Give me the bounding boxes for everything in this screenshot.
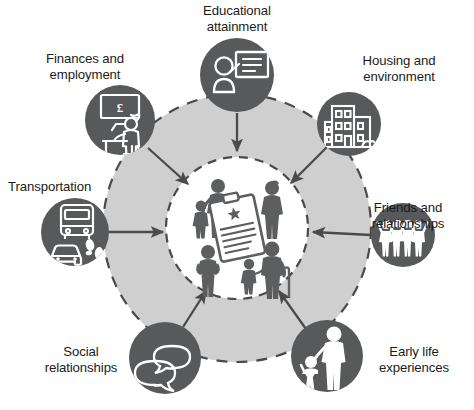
label-friends-and-relationships: Friends and relationships (345, 200, 471, 231)
node-social-relationships[interactable] (129, 322, 201, 394)
label-early-life-experiences: Early life experiences (358, 344, 470, 375)
label-housing-and-environment: Housing and environment (336, 53, 462, 84)
label-transportation: Transportation (8, 179, 134, 195)
label-finances-and-employment: Finances and employment (22, 51, 148, 82)
node-early-life-experiences[interactable] (291, 320, 363, 393)
node-educational-attainment[interactable] (200, 38, 274, 112)
node-housing-and-environment[interactable] (317, 92, 381, 156)
label-social-relationships: Social relationships (25, 344, 137, 375)
svg-text:£: £ (117, 100, 124, 115)
label-educational-attainment: Educational attainment (174, 3, 300, 34)
node-transportation[interactable] (41, 198, 109, 266)
